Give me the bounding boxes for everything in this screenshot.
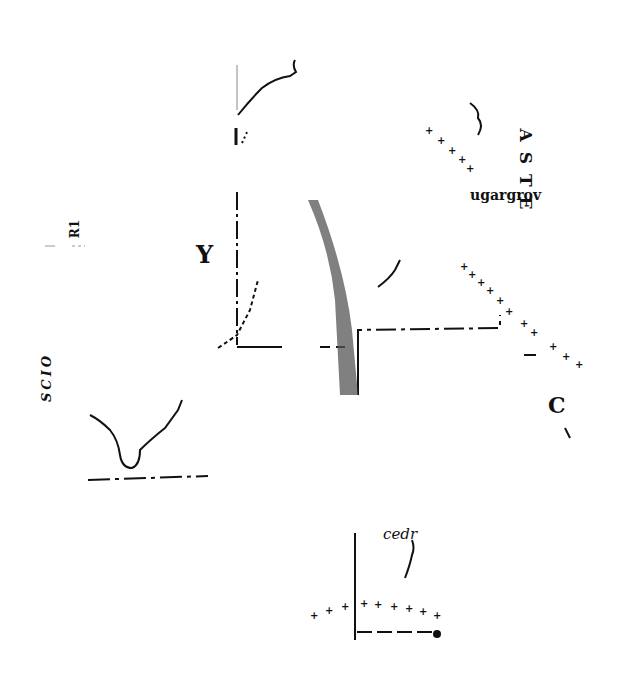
river-top <box>238 60 296 115</box>
svg-text:+: + <box>486 285 494 296</box>
map-linework: +++++ ++++++ +++++ +++++++++ <box>0 0 630 689</box>
svg-text:+: + <box>325 605 333 616</box>
label-r: R1 <box>68 220 82 238</box>
svg-text:+: + <box>575 359 583 370</box>
svg-text:+: + <box>520 318 528 329</box>
svg-text:+: + <box>466 163 474 174</box>
label-cedar: cedr <box>383 525 417 543</box>
boundary-main <box>358 315 500 346</box>
label-sugargrove: ugargrov <box>470 187 541 203</box>
svg-text:+: + <box>437 135 445 146</box>
svg-text:+: + <box>425 125 433 136</box>
svg-text:+: + <box>360 598 368 609</box>
svg-text:+: + <box>390 601 398 612</box>
svg-text:+: + <box>448 145 456 156</box>
stippled-strip <box>308 200 358 395</box>
svg-text:+: + <box>433 610 441 621</box>
label-c: C <box>548 392 566 418</box>
svg-text:+: + <box>468 269 476 280</box>
svg-text:+: + <box>496 295 504 306</box>
svg-text:+: + <box>477 277 485 288</box>
svg-text:+: + <box>310 610 318 621</box>
scanned-map: +++++ ++++++ +++++ +++++++++ Y R1 SCIO A… <box>0 0 630 689</box>
label-scio: SCIO <box>39 353 54 402</box>
river-left <box>90 400 182 468</box>
river-mid <box>378 260 400 287</box>
svg-text:+: + <box>549 341 557 352</box>
river-bottom <box>405 540 414 578</box>
svg-text:+: + <box>405 603 413 614</box>
svg-text:+: + <box>341 601 349 612</box>
label-y: Y <box>196 240 213 269</box>
boundary-bottom-left <box>88 476 208 480</box>
svg-text:+: + <box>530 327 538 338</box>
svg-text:+: + <box>374 599 382 610</box>
svg-text:+: + <box>505 306 513 317</box>
svg-text:+: + <box>562 351 570 362</box>
svg-text:+: + <box>419 606 427 617</box>
